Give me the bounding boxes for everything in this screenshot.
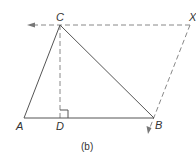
side-cb bbox=[60, 25, 154, 118]
right-angle-marker bbox=[60, 110, 68, 118]
label-d: D bbox=[56, 120, 64, 132]
dashed-line-xc bbox=[27, 23, 190, 28]
side-ac bbox=[24, 25, 60, 118]
label-a: A bbox=[15, 120, 23, 132]
triangle-diagram: C X A D B (b) bbox=[0, 0, 196, 158]
label-b: B bbox=[155, 119, 162, 131]
label-x: X bbox=[188, 11, 196, 23]
label-c: C bbox=[56, 11, 64, 23]
arrowhead-down-icon bbox=[147, 126, 152, 134]
arrowhead-left-icon bbox=[27, 23, 35, 28]
figure-caption: (b) bbox=[81, 141, 93, 152]
